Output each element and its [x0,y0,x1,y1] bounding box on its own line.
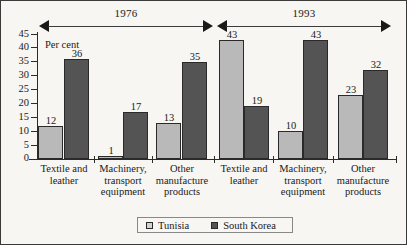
bar-tunisia-1993-machinery[interactable] [278,131,303,159]
period-label-1993: 1993 [217,7,391,19]
label-line: products [325,186,401,198]
y-tick-label: 45 [3,29,29,39]
bar-tunisia-1976-textile[interactable] [38,126,63,159]
y-tick [31,159,38,160]
bar-tunisia-1993-other[interactable] [338,95,363,159]
legend: Tunisia South Korea [137,217,293,233]
bar-value: 13 [152,112,186,123]
plot-area: 12 36 1 17 13 35 43 19 10 43 23 32 [37,33,397,159]
y-tick-label: 10 [3,126,29,136]
bar-value: 17 [119,101,153,112]
period-line [226,26,382,27]
bar-value: 32 [359,59,393,70]
y-tick-label: 25 [3,84,29,94]
arrow-right-icon [203,20,213,32]
y-tick-label: 5 [3,140,29,150]
bar-tunisia-1976-other[interactable] [156,123,181,159]
arrow-right-icon [381,20,391,32]
label-line: manufacture [325,175,401,187]
y-tick-label: 40 [3,42,29,52]
bar-korea-1993-textile[interactable] [244,106,269,159]
bar-korea-1976-machinery[interactable] [123,112,148,159]
bar-korea-1993-other[interactable] [363,70,388,159]
bar-korea-1976-textile[interactable] [64,59,89,159]
bar-value: 19 [240,95,274,106]
bar-tunisia-1976-machinery[interactable] [98,156,123,159]
category-label-1993-other: Other manufacture products [325,163,401,198]
y-tick-label: 30 [3,70,29,80]
bar-value: 43 [215,29,249,40]
y-tick-label: 15 [3,112,29,122]
x-axis-line [29,159,397,160]
y-tick-label: 0 [3,153,29,163]
bar-korea-1993-machinery[interactable] [303,40,328,159]
legend-item-south-korea[interactable]: South Korea [211,220,276,231]
period-label-1976: 1976 [39,7,213,19]
y-tick-label: 20 [3,98,29,108]
legend-item-tunisia[interactable]: Tunisia [146,220,189,231]
bar-value: 12 [34,115,68,126]
legend-swatch-icon [146,222,153,229]
label-line: products [144,186,220,198]
bar-value: 36 [60,48,94,59]
bar-korea-1976-other[interactable] [182,62,207,159]
bar-value: 43 [299,29,333,40]
legend-swatch-icon [211,222,218,229]
period-arrow-1976: 1976 [39,9,213,35]
chart-figure: 1976 1993 Per cent 45 40 35 30 25 20 15 … [0,0,407,245]
legend-label: South Korea [223,220,276,231]
y-tick-label: 35 [3,56,29,66]
period-line [48,26,204,27]
bar-value: 35 [178,51,212,62]
legend-label: Tunisia [158,220,189,231]
label-line: Other [325,163,401,175]
